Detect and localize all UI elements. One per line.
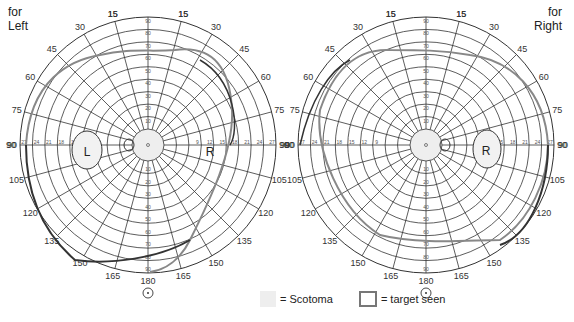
scotoma-swatch xyxy=(260,291,276,307)
svg-text:60: 60 xyxy=(539,72,549,82)
svg-text:70: 70 xyxy=(145,241,151,247)
svg-text:150: 150 xyxy=(486,258,501,268)
svg-text:40: 40 xyxy=(145,204,151,210)
svg-text:105: 105 xyxy=(9,175,24,185)
svg-text:120: 120 xyxy=(258,208,273,218)
svg-text:90: 90 xyxy=(423,266,429,272)
svg-text:10: 10 xyxy=(423,118,429,124)
svg-text:30: 30 xyxy=(75,22,85,32)
svg-text:80: 80 xyxy=(145,30,151,36)
svg-text:15: 15 xyxy=(178,9,188,19)
svg-text:30: 30 xyxy=(353,22,363,32)
svg-text:50: 50 xyxy=(423,216,429,222)
svg-text:20: 20 xyxy=(145,179,151,185)
svg-text:60: 60 xyxy=(303,72,313,82)
svg-text:50: 50 xyxy=(145,216,151,222)
svg-text:60: 60 xyxy=(423,55,429,61)
svg-text:27: 27 xyxy=(269,139,275,145)
svg-text:70: 70 xyxy=(423,241,429,247)
svg-text:20: 20 xyxy=(423,105,429,111)
svg-text:105: 105 xyxy=(272,175,287,185)
right-perimetry-chart: 1530456075901051201351501651801651501351… xyxy=(284,9,568,298)
svg-text:30: 30 xyxy=(145,93,151,99)
svg-text:45: 45 xyxy=(239,44,249,54)
svg-text:45: 45 xyxy=(47,44,57,54)
svg-text:90: 90 xyxy=(6,140,16,150)
svg-text:90: 90 xyxy=(558,140,568,150)
svg-text:165: 165 xyxy=(176,271,191,281)
svg-text:165: 165 xyxy=(383,271,398,281)
svg-text:30: 30 xyxy=(423,191,429,197)
svg-text:120: 120 xyxy=(536,208,551,218)
target-seen-label: = target seen xyxy=(381,293,446,305)
svg-text:21: 21 xyxy=(324,139,330,145)
svg-text:24: 24 xyxy=(257,139,263,145)
svg-text:90: 90 xyxy=(145,18,151,24)
svg-text:24: 24 xyxy=(535,139,541,145)
svg-text:21: 21 xyxy=(46,139,52,145)
svg-text:R: R xyxy=(206,145,215,159)
svg-text:45: 45 xyxy=(517,44,527,54)
perimetry-charts: 1530456075901051201351501651801651501351… xyxy=(0,0,574,322)
svg-text:40: 40 xyxy=(145,80,151,86)
svg-text:21: 21 xyxy=(522,139,528,145)
svg-text:70: 70 xyxy=(423,43,429,49)
svg-text:15: 15 xyxy=(349,139,355,145)
svg-text:90: 90 xyxy=(423,18,429,24)
svg-text:40: 40 xyxy=(423,80,429,86)
svg-text:30: 30 xyxy=(489,22,499,32)
svg-text:60: 60 xyxy=(145,229,151,235)
svg-text:9: 9 xyxy=(196,139,199,145)
svg-text:165: 165 xyxy=(105,271,120,281)
svg-text:21: 21 xyxy=(244,139,250,145)
svg-text:180: 180 xyxy=(140,276,155,286)
svg-text:40: 40 xyxy=(423,204,429,210)
svg-text:24: 24 xyxy=(312,139,318,145)
svg-text:18: 18 xyxy=(337,139,343,145)
svg-text:12: 12 xyxy=(361,139,367,145)
svg-text:18: 18 xyxy=(59,139,65,145)
svg-text:10: 10 xyxy=(145,118,151,124)
svg-text:75: 75 xyxy=(552,105,562,115)
svg-text:20: 20 xyxy=(423,179,429,185)
svg-text:60: 60 xyxy=(423,229,429,235)
svg-text:60: 60 xyxy=(261,72,271,82)
svg-text:105: 105 xyxy=(550,175,565,185)
svg-text:150: 150 xyxy=(350,258,365,268)
left-blind-spot-label: L xyxy=(84,145,91,159)
svg-text:75: 75 xyxy=(12,105,22,115)
svg-text:45: 45 xyxy=(325,44,335,54)
svg-text:10: 10 xyxy=(423,166,429,172)
svg-text:80: 80 xyxy=(423,254,429,260)
svg-text:15: 15 xyxy=(108,9,118,19)
svg-text:135: 135 xyxy=(237,236,252,246)
svg-text:9: 9 xyxy=(375,139,378,145)
svg-text:50: 50 xyxy=(423,68,429,74)
scotoma-label: = Scotoma xyxy=(280,293,333,305)
svg-text:24: 24 xyxy=(34,139,40,145)
svg-text:60: 60 xyxy=(145,55,151,61)
svg-text:135: 135 xyxy=(322,236,337,246)
svg-text:30: 30 xyxy=(145,191,151,197)
svg-text:15: 15 xyxy=(386,9,396,19)
svg-text:90: 90 xyxy=(284,140,294,150)
svg-text:60: 60 xyxy=(25,72,35,82)
svg-text:30: 30 xyxy=(423,93,429,99)
target-seen-swatch xyxy=(359,291,377,307)
svg-text:30: 30 xyxy=(211,22,221,32)
svg-text:75: 75 xyxy=(274,105,284,115)
svg-text:18: 18 xyxy=(510,139,516,145)
svg-text:120: 120 xyxy=(23,208,38,218)
svg-text:80: 80 xyxy=(423,30,429,36)
svg-text:50: 50 xyxy=(145,68,151,74)
svg-text:75: 75 xyxy=(290,105,300,115)
svg-text:10: 10 xyxy=(145,166,151,172)
svg-text:15: 15 xyxy=(219,139,225,145)
svg-text:165: 165 xyxy=(454,271,469,281)
svg-text:150: 150 xyxy=(208,258,223,268)
legend: = Scotoma = target seen xyxy=(260,291,445,307)
svg-text:105: 105 xyxy=(287,175,302,185)
svg-text:70: 70 xyxy=(145,43,151,49)
svg-text:135: 135 xyxy=(515,236,530,246)
svg-text:20: 20 xyxy=(145,105,151,111)
